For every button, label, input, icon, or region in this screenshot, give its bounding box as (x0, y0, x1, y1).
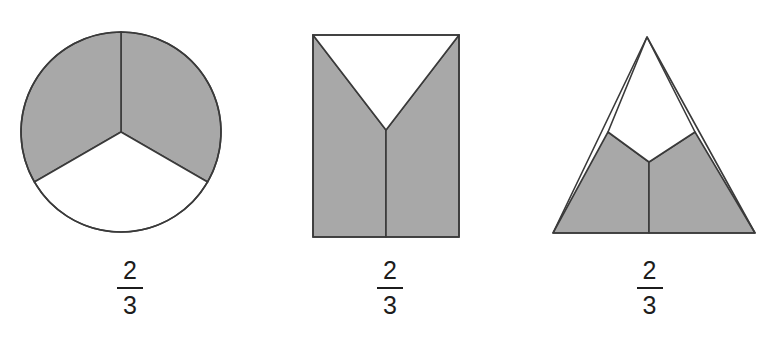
triangle-thirds-diagram (520, 0, 779, 250)
fraction-denominator: 3 (123, 292, 137, 318)
fraction-bar (377, 287, 403, 289)
figure-circle-thirds: 2 3 (0, 0, 260, 344)
circle-thirds-diagram (0, 0, 260, 250)
fraction-two-thirds: 2 3 (117, 258, 143, 318)
fraction-two-thirds: 2 3 (377, 258, 403, 318)
fraction-bar (637, 287, 663, 289)
fraction-worksheet: 2 3 2 3 (0, 0, 779, 344)
fraction-denominator: 3 (383, 292, 397, 318)
fraction-numerator: 2 (123, 258, 137, 285)
fraction-numerator: 2 (643, 258, 657, 285)
fraction-bar (117, 287, 143, 289)
fraction-denominator: 3 (643, 292, 657, 318)
fraction-label-rectangle: 2 3 (260, 258, 520, 318)
fraction-label-triangle: 2 3 (520, 258, 779, 318)
figure-rectangle-thirds: 2 3 (260, 0, 520, 344)
fraction-label-circle: 2 3 (0, 258, 260, 318)
rectangle-thirds-diagram (260, 0, 520, 250)
fraction-numerator: 2 (383, 258, 397, 285)
fraction-two-thirds: 2 3 (637, 258, 663, 318)
figure-triangle-thirds: 2 3 (520, 0, 779, 344)
